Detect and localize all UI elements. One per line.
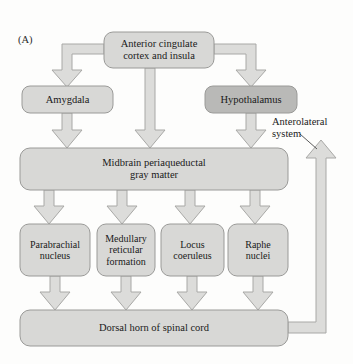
arrow-amygdala-to-pag <box>52 113 82 148</box>
annotation-anterolateral-system: Anterolateral system <box>272 116 353 141</box>
arrow-acc-to-pag <box>135 68 165 148</box>
arrow-pag-to-parabrachial <box>34 190 64 224</box>
diagram-canvas <box>0 0 353 364</box>
node-box-parabrachial-nucleus <box>20 224 90 276</box>
arrow-medullary-to-dorsal-horn <box>111 276 141 310</box>
node-box-locus-coeruleus <box>161 224 224 276</box>
arrow-pag-to-raphe <box>240 190 270 224</box>
node-box-raphe-nuclei <box>228 224 288 276</box>
node-box-hypothalamus <box>205 86 297 113</box>
arrow-anterolateral-system-ascending <box>288 140 336 333</box>
arrow-acc-to-amygdala <box>52 44 104 87</box>
node-box-anterior-cingulate <box>104 32 214 68</box>
figure-panel-a: (A) Anterior cingulate cortex and insula… <box>0 0 353 364</box>
node-box-dorsal-horn <box>20 310 288 346</box>
arrow-pag-to-medullary <box>107 190 137 224</box>
arrow-pag-to-locus-coeruleus <box>175 190 205 224</box>
arrow-acc-to-hypothalamus <box>214 44 266 87</box>
arrow-locus-coeruleus-to-dorsal-horn <box>177 276 207 310</box>
node-box-amygdala <box>22 86 113 113</box>
arrow-hypothalamus-to-pag <box>236 113 266 148</box>
arrow-raphe-to-dorsal-horn <box>243 276 273 310</box>
node-box-medullary-reticular-formation <box>97 224 155 276</box>
node-box-midbrain-pag <box>20 148 288 190</box>
arrow-parabrachial-to-dorsal-horn <box>40 276 70 310</box>
panel-tag: (A) <box>18 34 33 45</box>
